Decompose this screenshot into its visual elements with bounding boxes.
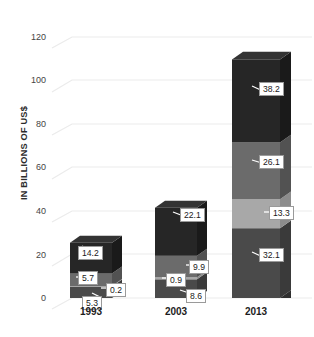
bar-2013-segment-4: [232, 59, 280, 142]
value-label-2013-segment-2: 13.3: [269, 206, 294, 220]
value-label-2003-segment-2: 0.9: [166, 273, 186, 287]
bar-2013-side-4: [280, 52, 291, 143]
value-label-2013-segment-3: 26.1: [259, 155, 284, 169]
value-label-1993-segment-3: 5.7: [78, 271, 98, 285]
value-label-1993-segment-4: 14.2: [78, 246, 103, 260]
value-label-1993-segment-2: 0.2: [106, 283, 126, 297]
x-axis-label-2013: 2013: [226, 306, 286, 317]
value-label-2003-segment-4: 22.1: [180, 208, 205, 222]
x-axis-label-1993: 1993: [61, 306, 121, 317]
chart-canvas: IN BILLIONS OF US$ 120 100 80 60 40 20 0: [0, 0, 314, 337]
value-label-2013-segment-4: 38.2: [259, 82, 284, 96]
x-axis-label-2003: 2003: [146, 306, 206, 317]
value-label-2013-segment-1: 32.1: [259, 248, 284, 262]
value-label-2003-segment-1: 8.6: [186, 289, 206, 303]
value-label-2003-segment-3: 9.9: [189, 260, 209, 274]
bar-2013-segment-3: [232, 143, 280, 200]
bar-2013-segment-1: [232, 228, 280, 298]
